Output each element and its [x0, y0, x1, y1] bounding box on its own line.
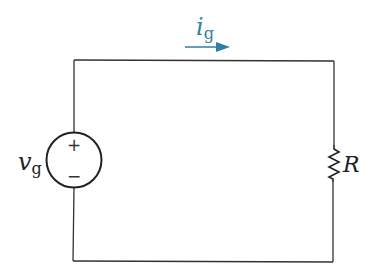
source-label-main: v [18, 148, 32, 176]
resistor [329, 145, 339, 182]
source-label: vg [18, 148, 42, 178]
left-wire-lower [73, 188, 74, 261]
arrow-head-icon [216, 42, 230, 52]
circuit-diagram: + − vg R ig [0, 0, 377, 276]
current-arrow [185, 42, 230, 52]
current-label-main: i [196, 13, 204, 41]
source-plus-sign: + [67, 135, 81, 155]
bottom-wire [73, 261, 333, 262]
source-label-subscript: g [32, 159, 42, 178]
top-wire [74, 60, 334, 61]
resistor-label: R [342, 152, 360, 177]
current-label: ig [196, 13, 214, 43]
voltage-source: + − [47, 133, 102, 188]
source-minus-sign: − [67, 166, 81, 186]
current-label-subscript: g [204, 24, 214, 43]
